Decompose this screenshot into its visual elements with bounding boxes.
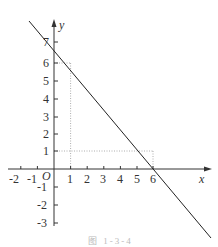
- svg-text:2: 2: [84, 172, 90, 186]
- svg-text:1: 1: [43, 144, 49, 158]
- x-axis-arrow-icon: [204, 167, 212, 172]
- x-axis: [8, 166, 206, 169]
- svg-text:-2: -2: [37, 198, 47, 212]
- svg-text:-2: -2: [9, 172, 19, 186]
- svg-text:-3: -3: [37, 216, 47, 230]
- svg-text:5: 5: [134, 172, 140, 186]
- svg-text:4: 4: [43, 92, 49, 106]
- guide-lines: [54, 63, 153, 169]
- figure-caption: 图 1-3-4: [88, 234, 133, 247]
- svg-text:4: 4: [117, 172, 123, 186]
- y-axis: [54, 26, 58, 226]
- svg-text:6: 6: [43, 56, 49, 70]
- svg-text:-1: -1: [37, 180, 47, 194]
- svg-text:-1: -1: [27, 172, 37, 186]
- y-axis-arrow-icon: [52, 19, 57, 27]
- svg-text:6: 6: [150, 172, 156, 186]
- svg-text:3: 3: [100, 172, 106, 186]
- x-axis-label: x: [198, 172, 205, 186]
- y-tick-labels: 7 6 5 4 3 2 1 -1 -2 -3: [37, 35, 49, 230]
- svg-text:5: 5: [43, 74, 49, 88]
- svg-text:1: 1: [67, 172, 73, 186]
- svg-text:3: 3: [43, 110, 49, 124]
- x-tick-labels: -2 -1 1 2 3 4 5 6: [9, 172, 156, 186]
- y-axis-label: y: [58, 18, 65, 32]
- svg-text:2: 2: [43, 127, 49, 141]
- svg-text:7: 7: [43, 35, 49, 49]
